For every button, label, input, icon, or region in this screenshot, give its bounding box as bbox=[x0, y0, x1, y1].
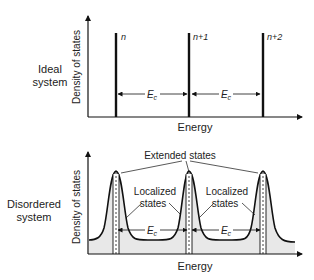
localized-states-label: states bbox=[212, 198, 239, 209]
leader-line bbox=[126, 203, 142, 218]
density-of-states-diagram: Ideal system Density of states n n+1 n+2… bbox=[0, 0, 314, 280]
localized-states-label: Localized bbox=[206, 186, 248, 197]
localized-states-label: Localized bbox=[134, 186, 176, 197]
extended-state-band bbox=[113, 172, 119, 254]
system-label: Disordered bbox=[7, 198, 61, 210]
extended-states-label: Extended states bbox=[144, 150, 216, 161]
leader-line bbox=[169, 203, 181, 215]
ideal-system-panel: Ideal system Density of states n n+1 n+2… bbox=[33, 16, 302, 133]
system-label: system bbox=[33, 76, 68, 88]
level-label: n bbox=[121, 32, 126, 42]
disordered-system-panel: Disordered system Density of states bbox=[7, 150, 302, 272]
y-axis-label: Density of states bbox=[71, 30, 82, 104]
localized-states-label: states bbox=[140, 198, 167, 209]
spacing-label: Ec bbox=[147, 225, 158, 237]
x-axis-label: Energy bbox=[178, 260, 213, 272]
leader-line bbox=[242, 203, 255, 215]
spacing-label: Ec bbox=[221, 225, 232, 237]
spacing-label: Ec bbox=[221, 89, 232, 101]
y-axis-label: Density of states bbox=[71, 170, 82, 244]
system-label: system bbox=[17, 211, 52, 223]
leader-line bbox=[186, 161, 189, 172]
spacing-label: Ec bbox=[147, 89, 158, 101]
leader-line bbox=[199, 203, 214, 218]
level-label: n+1 bbox=[193, 32, 208, 42]
x-axis-label: Energy bbox=[178, 121, 213, 133]
leader-line bbox=[121, 161, 182, 173]
extended-state-band bbox=[186, 172, 192, 254]
level-label: n+2 bbox=[267, 32, 282, 42]
leader-line bbox=[190, 161, 258, 173]
extended-state-band bbox=[260, 172, 266, 254]
system-label: Ideal bbox=[38, 63, 62, 75]
